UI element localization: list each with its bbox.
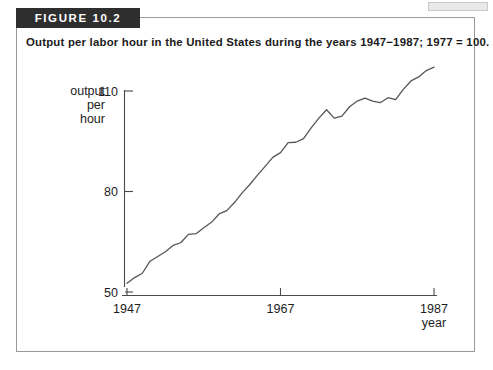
y-axis-title-line: hour: [80, 112, 105, 126]
y-tick-label: 50: [104, 286, 118, 300]
y-axis-title: outputperhour: [70, 84, 105, 126]
line-chart: 5080110 194719671987 outputperhour year: [0, 0, 493, 370]
x-tick-label: 1967: [267, 302, 295, 316]
x-axis-tick-labels: 194719671987: [113, 302, 448, 316]
y-axis-title-line: output: [70, 84, 105, 98]
x-tick-label: 1987: [420, 302, 448, 316]
x-axis-title-label: year: [422, 316, 446, 330]
data-series-line: [127, 67, 434, 283]
y-tick-label: 80: [104, 185, 118, 199]
y-axis-ticks: [125, 91, 133, 292]
x-tick-label: 1947: [113, 302, 141, 316]
x-axis-ticks: [127, 288, 434, 295]
y-axis-title-line: per: [87, 98, 105, 112]
